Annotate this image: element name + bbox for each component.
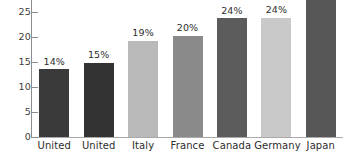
y-axis-tick xyxy=(31,37,38,38)
y-axis-tick-label: 20 xyxy=(9,32,31,42)
bar xyxy=(128,41,158,137)
y-axis-tick xyxy=(31,137,38,138)
bar-group: 24% xyxy=(217,0,247,137)
y-axis-tick-label: 0 xyxy=(9,132,31,142)
bar xyxy=(217,18,247,137)
plot-area: 14%15%19%20%24%24% xyxy=(32,0,343,137)
y-axis-tick-label: 5 xyxy=(9,107,31,117)
bar xyxy=(84,63,114,137)
y-axis: 0510152025 xyxy=(0,0,31,157)
y-axis-tick-label: 25 xyxy=(9,7,31,17)
y-axis-tick-label: 15 xyxy=(9,57,31,67)
bar-value-label: 24% xyxy=(266,5,287,15)
bar-value-label: 14% xyxy=(43,57,64,67)
x-axis-category-label: Germany xyxy=(254,140,298,152)
y-axis-tick-label: 10 xyxy=(9,82,31,92)
x-axis-category-label: United xyxy=(32,140,76,152)
x-axis-category-label: Japan xyxy=(299,140,343,152)
bar-chart: 0510152025 14%15%19%20%24%24% UnitedUnit… xyxy=(0,0,343,157)
bar-group: 15% xyxy=(84,0,114,137)
y-axis-tick xyxy=(31,112,38,113)
bar-group: 20% xyxy=(173,0,203,137)
x-axis-line xyxy=(31,137,343,138)
x-axis-category-label: France xyxy=(165,140,209,152)
bar xyxy=(39,69,69,137)
bar xyxy=(173,36,203,137)
bar-group: 24% xyxy=(261,0,291,137)
bar-value-label: 15% xyxy=(88,50,109,60)
x-axis-category-label: United xyxy=(76,140,120,152)
bar-value-label: 19% xyxy=(132,28,153,38)
bar xyxy=(261,18,291,137)
y-axis-tick xyxy=(31,87,38,88)
bar-group xyxy=(306,0,336,137)
x-axis-category-label: Italy xyxy=(121,140,165,152)
bar-group: 14% xyxy=(39,0,69,137)
x-axis-category-label: Canada xyxy=(210,140,254,152)
bar-value-label: 20% xyxy=(177,23,198,33)
x-axis-category-labels: UnitedUnitedItalyFranceCanadaGermanyJapa… xyxy=(32,140,343,157)
bar xyxy=(306,0,336,137)
bar-value-label: 24% xyxy=(221,6,242,16)
y-axis-tick xyxy=(31,62,38,63)
bar-group: 19% xyxy=(128,0,158,137)
y-axis-tick xyxy=(31,12,38,13)
